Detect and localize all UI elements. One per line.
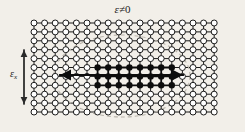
top-label: ε≠0 xyxy=(0,3,245,16)
side-label-subscript: x xyxy=(14,73,17,81)
top-label-relation: ≠0 xyxy=(119,3,131,15)
side-label: εx xyxy=(10,68,17,81)
lattice-canvas xyxy=(0,0,245,132)
lattice-figure: ε≠0 εx xyxy=(0,0,245,132)
